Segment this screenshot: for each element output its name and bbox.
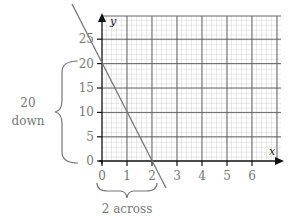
x-tick: 5: [223, 169, 231, 183]
bottom-brace-label: 2 across: [102, 202, 153, 216]
y-tick: 15: [79, 81, 94, 95]
x-tick: 0: [98, 169, 106, 183]
y-tick: 10: [79, 105, 94, 119]
x-tick: 2: [148, 169, 156, 183]
y-tick: 20: [79, 57, 94, 71]
x-tick: 6: [248, 169, 256, 183]
gradient-diagram: y x 25 20 15 10 5 0 0 1 2 3 4 5 6 20 dow…: [0, 0, 291, 223]
left-brace-icon: [55, 61, 78, 163]
y-tick-labels: 25 20 15 10 5 0: [79, 32, 94, 168]
x-tick: 1: [123, 169, 131, 183]
x-tick: 4: [198, 169, 206, 183]
graph-grid: [102, 16, 281, 161]
y-tick: 5: [86, 130, 94, 144]
y-axis-label: y: [109, 15, 117, 28]
x-tick: 3: [173, 169, 181, 183]
left-brace-label-word: down: [12, 114, 45, 128]
bottom-brace-icon: [97, 183, 157, 198]
x-axis-label: x: [269, 145, 276, 158]
left-brace-label-number: 20: [20, 96, 35, 110]
x-tick-labels: 0 1 2 3 4 5 6: [98, 169, 256, 183]
y-tick: 0: [86, 154, 94, 168]
